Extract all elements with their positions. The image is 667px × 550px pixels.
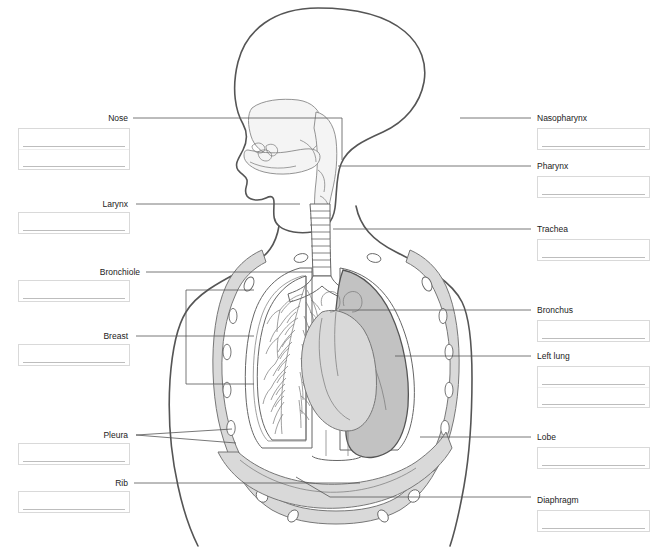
answer-line[interactable] [538,511,649,531]
label-breast: Breast [0,331,128,341]
answer-line[interactable] [538,240,649,260]
answer-line[interactable] [538,448,649,468]
answer-box-pleura[interactable] [18,443,130,465]
answer-box-trachea[interactable] [537,239,650,261]
worksheet-canvas: .ol { fill:none; stroke:#555; stroke-wid… [0,0,667,550]
answer-line[interactable] [538,367,649,387]
label-nasopharynx: Nasopharynx [537,113,587,123]
answer-line[interactable] [19,129,129,149]
label-bronchiole: Bronchiole [0,267,140,277]
label-pleura: Pleura [0,430,128,440]
answer-line[interactable] [19,444,129,464]
answer-box-bronchus[interactable] [537,320,650,342]
answer-line[interactable] [538,129,649,149]
right-lung-outline [257,276,306,440]
answer-line[interactable] [538,177,649,197]
answer-line[interactable] [19,281,129,301]
label-diaphragm: Diaphragm [537,495,579,505]
label-pharynx: Pharynx [537,161,568,171]
label-left_lung: Left lung [537,351,570,361]
answer-line[interactable] [538,321,649,341]
label-nose: Nose [0,113,128,123]
label-rib: Rib [0,478,128,488]
answer-box-lobe[interactable] [537,447,650,469]
answer-box-bronchiole[interactable] [18,280,130,302]
answer-box-left_lung[interactable] [537,366,650,408]
mediastinum-stem [326,430,348,456]
label-trachea: Trachea [537,224,568,234]
label-bronchus: Bronchus [537,305,573,315]
label-lobe: Lobe [537,432,556,442]
label-larynx: Larynx [0,199,128,209]
answer-line[interactable] [19,213,129,233]
answer-box-diaphragm[interactable] [537,510,650,532]
answer-box-rib[interactable] [18,491,130,513]
answer-box-larynx[interactable] [18,212,130,234]
answer-line[interactable] [19,345,129,365]
answer-box-pharynx[interactable] [537,176,650,198]
answer-box-breast[interactable] [18,344,130,366]
answer-line[interactable] [19,149,129,169]
answer-line[interactable] [538,387,649,407]
answer-box-nasopharynx[interactable] [537,128,650,150]
answer-box-nose[interactable] [18,128,130,170]
mediastinum-base [312,456,362,461]
oral-cavity-floor [244,149,320,174]
trachea-tube [310,204,331,276]
answer-line[interactable] [19,492,129,512]
